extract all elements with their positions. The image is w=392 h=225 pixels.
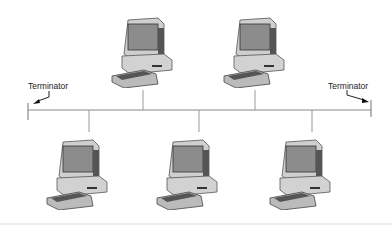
terminator-label-left: Terminator [28,81,68,91]
computer-icon [110,10,176,88]
computer-icon [45,132,111,210]
computer-icon [268,132,334,210]
terminator-label-right: Terminator [328,81,368,91]
computer-icon [222,10,288,88]
arrow-right-icon [347,90,369,103]
computer-icon [155,132,221,210]
arrow-left-icon [33,91,49,104]
